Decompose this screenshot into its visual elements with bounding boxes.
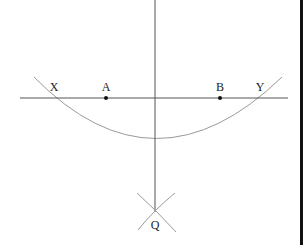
label-b: B — [216, 80, 224, 94]
diagram-canvas: X A B Y Q — [0, 0, 303, 245]
label-q: Q — [151, 218, 160, 232]
arc-xy — [34, 77, 282, 139]
label-y: Y — [256, 80, 265, 94]
point-a — [104, 96, 108, 100]
label-a: A — [102, 80, 111, 94]
right-edge-bar — [300, 0, 303, 245]
label-x: X — [50, 80, 59, 94]
construction-figure: X A B Y Q — [0, 0, 303, 245]
point-b — [218, 96, 222, 100]
